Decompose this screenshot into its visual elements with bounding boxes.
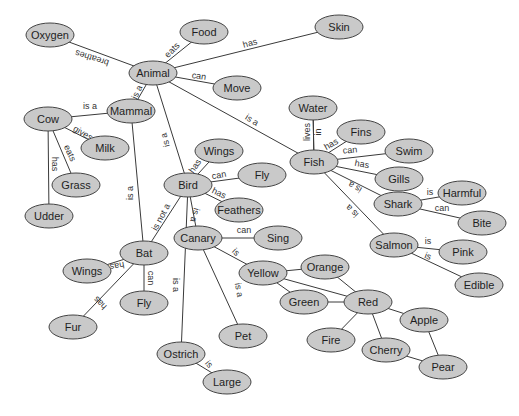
edge-label: can [237, 225, 252, 235]
node-label: Grass [61, 179, 91, 191]
node-label: Ostrich [164, 348, 199, 360]
node-harmful: Harmful [438, 181, 486, 205]
edge-label: is a [83, 101, 97, 111]
edge-label: has [210, 185, 228, 200]
node-pet: Pet [219, 324, 267, 348]
node-label: Feathers [217, 204, 261, 216]
node-yellow: Yellow [239, 261, 287, 285]
node-cherry: Cherry [362, 338, 410, 362]
edge-label: can [435, 203, 450, 213]
node-orange: Orange [301, 255, 349, 279]
edge-label: is a [243, 112, 260, 128]
node-fins: Fins [337, 120, 385, 144]
edge-label: is a [344, 203, 361, 220]
node-canary: Canary [174, 226, 222, 250]
node-udder: Udder [25, 204, 73, 228]
edge-bat-mammal [131, 111, 144, 253]
node-large: Large [203, 370, 251, 394]
edge-label: is a [125, 186, 135, 200]
semantic-network-diagram: breatheseatshascanis ais agiveseatshasis… [0, 0, 519, 416]
node-label: Shark [384, 198, 413, 210]
node-mammal: Mammal [107, 99, 155, 123]
edge-label: is a [171, 278, 181, 292]
node-label: Fly [137, 297, 152, 309]
node-fish: Fish [290, 150, 338, 174]
node-label: Bat [136, 247, 153, 259]
node-wings_bird: Wings [195, 139, 243, 163]
node-label: Animal [136, 67, 170, 79]
edge-label: is [425, 236, 432, 246]
node-label: Yellow [247, 267, 278, 279]
node-sing: Sing [254, 226, 302, 250]
node-gills: Gills [375, 167, 423, 191]
node-milk: Milk [81, 136, 129, 160]
edge-label: eats [62, 143, 78, 163]
node-label: Food [191, 26, 216, 38]
edge-label: is not a [150, 202, 172, 232]
node-bite: Bite [458, 211, 506, 235]
node-label: Fire [322, 334, 341, 346]
node-label: Fly [255, 169, 270, 181]
node-label: Swim [396, 145, 423, 157]
node-label: Bite [473, 217, 492, 229]
edge-label: lives [302, 123, 312, 142]
edge-ostrich-bird [181, 185, 188, 354]
node-apple: Apple [400, 308, 448, 332]
node-fire: Fire [307, 328, 355, 352]
edge-label: has [354, 158, 371, 170]
node-fur: Fur [49, 315, 97, 339]
node-label: Mammal [110, 105, 152, 117]
node-skin: Skin [315, 15, 363, 39]
node-pear: Pear [419, 355, 467, 379]
edge-label: is a [188, 207, 201, 223]
node-layer: OxygenFoodSkinAnimalMoveMammalCowMilkGra… [24, 15, 506, 394]
edge-label: is a [233, 282, 245, 298]
node-label: Udder [34, 210, 64, 222]
node-label: Wings [204, 145, 235, 157]
edge-cow-udder [48, 119, 49, 216]
node-label: Sing [267, 232, 289, 244]
node-label: Cow [37, 113, 59, 125]
node-label: Fins [351, 126, 372, 138]
node-label: Skin [328, 21, 349, 33]
node-ostrich: Ostrich [157, 342, 205, 366]
node-label: Bird [178, 179, 198, 191]
node-grass: Grass [52, 173, 100, 197]
edge-label: has [50, 157, 60, 172]
node-swim: Swim [385, 139, 433, 163]
node-pink: Pink [439, 240, 487, 264]
node-food: Food [180, 20, 228, 44]
node-label: Pet [235, 330, 252, 342]
node-bat: Bat [120, 241, 168, 265]
node-label: Edible [464, 279, 495, 291]
edge-label: is [423, 250, 433, 262]
edge-label: in [313, 128, 323, 135]
node-animal: Animal [129, 61, 177, 85]
node-fly_bat: Fly [120, 291, 168, 315]
node-label: Pink [452, 246, 474, 258]
node-red: Red [344, 290, 392, 314]
node-label: Green [289, 296, 320, 308]
node-green: Green [280, 290, 328, 314]
node-label: Move [224, 82, 251, 94]
node-label: Large [213, 376, 241, 388]
edge-label: is a [346, 179, 363, 195]
edge-label: is [427, 187, 434, 197]
node-label: Cherry [369, 344, 403, 356]
node-label: Fish [304, 156, 325, 168]
node-oxygen: Oxygen [26, 23, 74, 47]
node-label: Harmful [443, 187, 482, 199]
edge-label: has [91, 294, 109, 312]
node-label: Milk [95, 142, 115, 154]
node-feathers: Feathers [215, 198, 263, 222]
node-label: Gills [388, 173, 410, 185]
edge-label: can [146, 271, 156, 286]
edge-label: can [191, 70, 207, 82]
node-bird: Bird [164, 173, 212, 197]
edge-label: has [322, 136, 340, 152]
node-label: Water [299, 102, 328, 114]
edge-label: can [342, 144, 357, 155]
edge-label: can [211, 169, 227, 181]
node-fly_bird: Fly [238, 163, 286, 187]
node-label: Oxygen [31, 29, 69, 41]
